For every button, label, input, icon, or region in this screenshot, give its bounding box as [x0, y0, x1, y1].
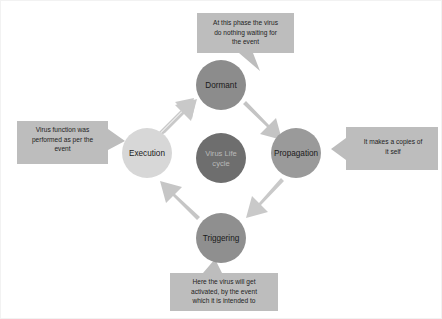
node-execution-label: Execution — [129, 149, 165, 158]
callout-execution: Virus function was performed as per the … — [17, 121, 125, 164]
node-propagation-label: Propagation — [274, 149, 319, 158]
diagram-canvas: At this phase the virus do nothing waiti… — [1, 1, 442, 319]
callout-propagation-line-2: it self — [385, 148, 401, 155]
node-propagation[interactable]: Propagation — [271, 128, 321, 178]
callout-triggering-line-3: which it is intended to — [191, 297, 255, 304]
arrow-propagation-to-triggering — [246, 178, 284, 218]
virus-life-cycle-diagram: At this phase the virus do nothing waiti… — [0, 0, 442, 319]
callout-dormant-line-3: the event — [232, 38, 259, 45]
callout-propagation-line-1: It makes a copies of — [364, 138, 423, 146]
callout-dormant-line-1: At this phase the virus — [213, 19, 279, 27]
callout-triggering-line-2: activated, by the event — [191, 288, 257, 296]
node-triggering-label: Triggering — [203, 234, 240, 243]
center-node: Virus Life cycle — [196, 133, 246, 183]
callout-execution-line-3: event — [54, 145, 70, 152]
callout-dormant-line-2: do nothing waiting for — [214, 29, 277, 37]
node-dormant-label: Dormant — [205, 81, 237, 90]
callout-execution-line-2: performed as per the — [32, 136, 94, 144]
arrow-dormant-to-propagation — [243, 101, 282, 140]
callout-propagation: It makes a copies of it self — [331, 127, 438, 170]
center-node-line-1: Virus Life — [205, 149, 237, 158]
arrow-execution-to-dormant — [158, 98, 197, 136]
node-triggering[interactable]: Triggering — [196, 213, 246, 263]
node-dormant[interactable]: Dormant — [196, 60, 246, 110]
center-node-line-2: cycle — [212, 159, 229, 168]
callout-triggering: Here the virus will get activated, by th… — [170, 259, 278, 311]
callout-triggering-line-1: Here the virus will get — [192, 278, 255, 286]
node-execution[interactable]: Execution — [122, 128, 172, 178]
callout-execution-line-1: Virus function was — [36, 126, 90, 133]
arrow-triggering-to-execution — [160, 181, 200, 220]
